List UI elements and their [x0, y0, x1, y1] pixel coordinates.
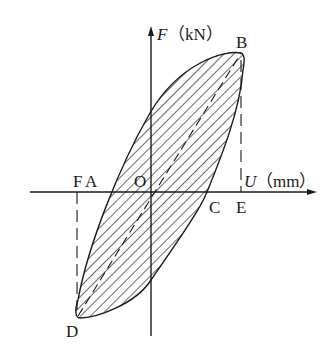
point-label-c: C: [209, 198, 220, 217]
point-label-f: F: [73, 172, 82, 191]
dashed-line-db: [78, 53, 241, 316]
hysteresis-diagram: F （kN） U （mm） O F A B C E D: [0, 0, 335, 364]
y-axis-variable: F: [156, 25, 168, 44]
point-label-d: D: [66, 322, 78, 341]
y-axis-unit: （kN）: [168, 25, 223, 44]
point-label-e: E: [236, 198, 246, 217]
point-label-b: B: [236, 33, 247, 52]
point-label-a: A: [85, 172, 98, 191]
origin-label: O: [134, 172, 146, 191]
x-axis-unit: （mm）: [256, 172, 316, 191]
